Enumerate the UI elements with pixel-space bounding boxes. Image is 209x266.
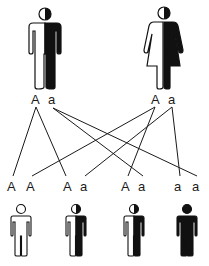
mother-body-dark-half xyxy=(164,22,183,89)
line-father-A-to-offspring1 xyxy=(13,107,36,176)
offspring2-allele-left: A xyxy=(63,179,72,194)
offspring4-figure-affected xyxy=(177,205,197,257)
mother-body-light-half xyxy=(144,22,163,89)
mother-figure xyxy=(144,7,183,89)
offspring4-allele-left: a xyxy=(174,179,182,194)
inheritance-diagram: A a A a A A A a A a a a xyxy=(0,0,209,266)
offspring3-head-icon xyxy=(130,205,139,214)
father-body-dark-half xyxy=(45,23,61,89)
father-body-light-half xyxy=(29,23,45,89)
offspring1-allele-right: A xyxy=(26,179,35,194)
mother-allele-left: A xyxy=(151,92,160,107)
father-allele-right: a xyxy=(48,92,56,107)
offspring3-allele-right: a xyxy=(138,179,146,194)
offspring2-figure-carrier xyxy=(66,205,86,257)
offspring1-figure-unaffected xyxy=(11,205,31,257)
offspring3-figure-carrier xyxy=(124,205,144,257)
offspring3-allele-left: A xyxy=(121,179,130,194)
father-allele-left: A xyxy=(31,92,40,107)
line-mother-A-to-offspring1 xyxy=(32,107,155,176)
mother-allele-right: a xyxy=(168,92,176,107)
offspring2-head-icon xyxy=(72,205,81,214)
line-mother-A-to-offspring3 xyxy=(128,107,155,176)
offspring4-allele-right: a xyxy=(192,179,200,194)
mother-head-icon xyxy=(158,7,170,19)
line-father-a-to-offspring4 xyxy=(53,108,197,176)
father-head-icon xyxy=(39,8,51,20)
father-figure xyxy=(29,8,61,89)
offspring2-allele-right: a xyxy=(80,179,88,194)
offspring1-allele-left: A xyxy=(7,179,16,194)
cross-lines xyxy=(13,107,197,176)
